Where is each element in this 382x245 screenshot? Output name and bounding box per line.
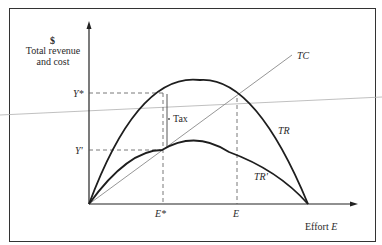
e-label: E [233, 209, 239, 219]
tax-pointer-dot [168, 118, 170, 120]
x-axis-label: Effort E [305, 222, 337, 232]
diagram-canvas [0, 0, 382, 245]
x-axis-label-text: Effort [305, 221, 329, 232]
y-star-label: Y* [73, 89, 84, 99]
tr-curve [89, 80, 308, 204]
y-axis-label-line1: Total revenue [13, 45, 93, 56]
tr-prime-label: TR' [254, 172, 268, 182]
figure-frame [10, 9, 376, 242]
tr-prime-curve [89, 140, 308, 204]
tc-label: TC [297, 51, 309, 61]
y-prime-label: Y' [75, 146, 83, 156]
tr-label: TR [278, 126, 290, 136]
y-axis-arrow-icon [87, 21, 92, 29]
e-star-label: E* [155, 209, 166, 219]
x-axis-arrow-icon [350, 202, 358, 207]
y-axis-label-line2: and cost [13, 56, 93, 67]
tax-label: Tax [173, 114, 188, 124]
scan-artifact-line [0, 97, 382, 115]
x-axis-label-var: E [331, 221, 337, 232]
